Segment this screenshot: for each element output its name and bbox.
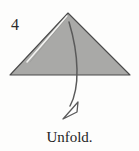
step-number-label: 4 bbox=[11, 16, 19, 34]
figure-caption: Unfold. bbox=[0, 128, 139, 146]
folded-paper-triangle bbox=[10, 13, 130, 75]
origami-step-figure: 4 Unfold. bbox=[0, 0, 139, 151]
